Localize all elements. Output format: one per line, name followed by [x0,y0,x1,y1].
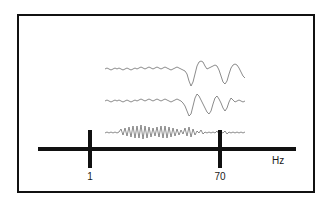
axis-tick-70 [218,130,222,168]
axis-unit-label: Hz [272,155,284,166]
hfo-trace-bottom [105,125,245,139]
frequency-axis-figure: 1 70 Hz [0,0,333,208]
waveform-panel [105,56,245,141]
axis-tick-label-70: 70 [200,171,240,182]
eeg-trace-middle [105,94,245,116]
eeg-trace-top [105,61,245,86]
axis-tick-label-1: 1 [70,171,110,182]
figure-frame-border [17,14,315,193]
waveform-svg [105,56,245,141]
frequency-axis-line [38,147,296,151]
axis-tick-1 [88,130,92,168]
